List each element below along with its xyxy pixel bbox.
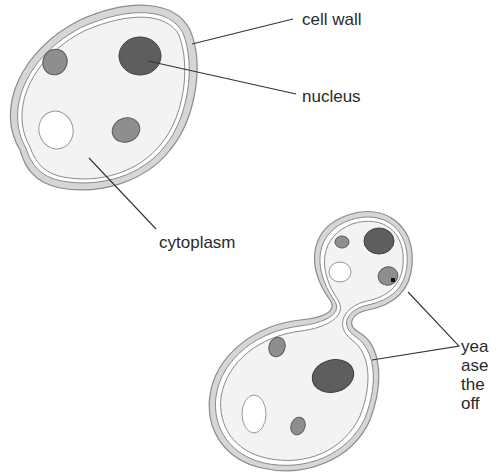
nucleus bbox=[119, 37, 161, 75]
label-budding-line-4: off bbox=[461, 394, 480, 413]
budding-yeast-cell bbox=[209, 212, 412, 471]
bud-vacuole bbox=[329, 262, 351, 282]
yeast-cell-diagram: cell wall nucleus cytoplasm yea ase the … bbox=[0, 0, 498, 474]
label-budding-line-3: the bbox=[461, 375, 485, 394]
bud-spot bbox=[391, 278, 395, 282]
label-cytoplasm: cytoplasm bbox=[159, 233, 236, 252]
yeast-cell bbox=[10, 5, 197, 190]
label-budding-line-1: yea bbox=[461, 337, 489, 356]
label-cell-wall: cell wall bbox=[302, 10, 362, 29]
cell-wall-leader bbox=[192, 19, 293, 44]
bud-organelle bbox=[335, 236, 349, 248]
bud-nucleus bbox=[364, 228, 394, 254]
label-budding-line-2: ase bbox=[461, 356, 488, 375]
label-nucleus: nucleus bbox=[302, 87, 361, 106]
mother-vacuole bbox=[242, 395, 266, 433]
